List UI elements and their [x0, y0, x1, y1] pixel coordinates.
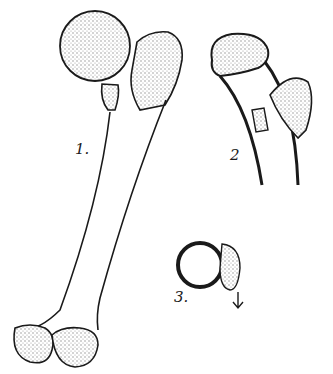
- figure-label-2: 2: [230, 146, 240, 164]
- femur-full-view: [14, 11, 182, 367]
- figure-label-3: 3.: [174, 288, 188, 306]
- proximal-femur-detail: [211, 34, 311, 185]
- femur-illustration: [0, 0, 333, 374]
- figure-label-1: 1.: [75, 140, 89, 158]
